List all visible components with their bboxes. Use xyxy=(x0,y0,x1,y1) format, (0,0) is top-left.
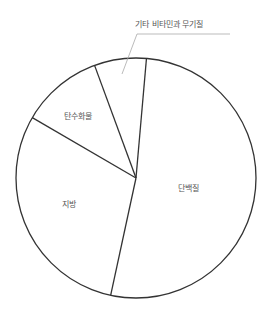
label-other: 기타 비타민과 무기질 xyxy=(135,18,203,29)
pie-chart xyxy=(0,0,273,318)
label-carb: 탄수화물 xyxy=(64,110,92,121)
label-fat: 지방 xyxy=(62,198,76,209)
label-protein: 단백질 xyxy=(178,182,199,193)
